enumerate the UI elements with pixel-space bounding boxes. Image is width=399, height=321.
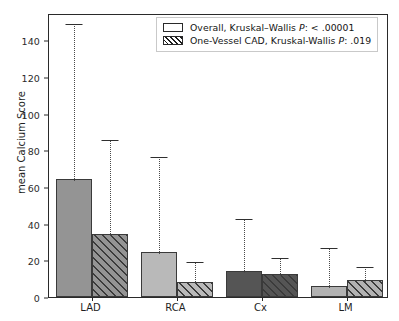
x-tick-label-lm: LM: [338, 302, 352, 313]
x-tick-label-lad: LAD: [80, 302, 100, 313]
bar-rca-series2: [177, 282, 213, 297]
bar-lad-series1: [56, 179, 92, 297]
legend-label: Overall, Kruskal–Wallis P: < .00001: [190, 22, 355, 33]
bar-cx-series1: [226, 271, 262, 297]
error-bar-line: [195, 262, 196, 283]
error-bar-cap: [101, 140, 118, 141]
bar-cx-series2: [262, 274, 298, 297]
legend-swatch-hatched: [163, 36, 183, 45]
y-tick-label: 60: [28, 183, 40, 194]
y-tick-label: 100: [22, 109, 40, 120]
error-bar-line: [329, 248, 330, 287]
x-tick-label-cx: Cx: [254, 302, 267, 313]
plot-area: [48, 14, 388, 298]
error-bar-cap: [320, 248, 337, 249]
error-bar-line: [74, 24, 75, 181]
y-tick-label: 80: [28, 146, 40, 157]
error-bar-line: [280, 258, 281, 276]
x-tick-mark: [92, 297, 93, 301]
legend-label: One-Vessel CAD, Kruskal-Wallis P: .019: [190, 35, 371, 46]
y-tick-label: 120: [22, 73, 40, 84]
x-tick-label-rca: RCA: [165, 302, 185, 313]
y-tick-label: 0: [34, 293, 40, 304]
y-tick-label: 20: [28, 256, 40, 267]
y-tick-label: 140: [22, 36, 40, 47]
error-bar-cap: [150, 157, 167, 158]
bar-lm-series2: [347, 280, 383, 297]
error-bar-cap: [271, 258, 288, 259]
legend-swatch-plain: [163, 23, 183, 32]
error-bar-cap: [356, 267, 373, 268]
error-bar-cap: [65, 24, 82, 25]
error-bar-line: [110, 140, 111, 236]
x-tick-mark: [347, 297, 348, 301]
error-bar-line: [365, 267, 366, 282]
figure: mean Calcium Score 020406080100120140 LA…: [0, 0, 399, 321]
chart-legend: Overall, Kruskal–Wallis P: < .00001One-V…: [156, 17, 378, 52]
error-bar-cap: [186, 262, 203, 263]
x-tick-mark: [262, 297, 263, 301]
bar-rca-series1: [141, 252, 177, 297]
error-bar-cap: [235, 219, 252, 220]
error-bar-line: [244, 219, 245, 273]
y-axis: 020406080100120140: [0, 0, 48, 321]
error-bar-line: [159, 157, 160, 255]
bar-lad-series2: [92, 234, 128, 297]
legend-item-2: One-Vessel CAD, Kruskal-Wallis P: .019: [163, 34, 371, 47]
x-tick-mark: [177, 297, 178, 301]
y-tick-label: 40: [28, 219, 40, 230]
legend-item-1: Overall, Kruskal–Wallis P: < .00001: [163, 21, 371, 34]
